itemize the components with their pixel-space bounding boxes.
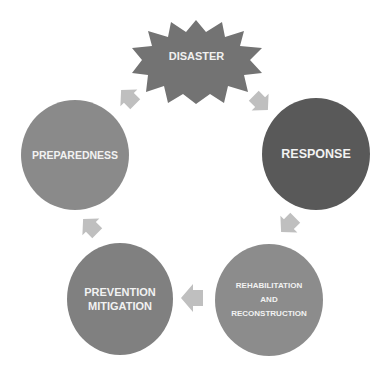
arrow-preparedness-to-disaster	[113, 82, 144, 113]
phase-prevention-mitigation: PREVENTION MITIGATION	[67, 243, 173, 355]
rehabilitation-line-1: REHABILITATION	[231, 279, 307, 293]
arrow-disaster-to-response	[245, 87, 276, 118]
prevention-line-1: PREVENTION	[84, 285, 156, 299]
rehabilitation-line-3: RECONSTRUCTION	[231, 307, 307, 321]
disaster-cycle-diagram: DISASTER PREPAREDNESS RESPONSE REHABILIT…	[0, 0, 387, 373]
disaster-label: DISASTER	[133, 50, 260, 62]
phase-response: RESPONSE	[262, 98, 370, 210]
arrow-response-to-rehabilitation	[273, 209, 304, 240]
response-label: RESPONSE	[281, 147, 350, 161]
arrow-rehabilitation-to-prevention	[181, 284, 203, 312]
phase-rehabilitation-reconstruction: REHABILITATION AND RECONSTRUCTION	[215, 244, 323, 356]
rehabilitation-line-2: AND	[231, 293, 307, 307]
arrow-prevention-to-preparedness	[75, 211, 106, 242]
prevention-line-2: MITIGATION	[84, 299, 156, 313]
disaster-starburst	[132, 20, 262, 104]
preparedness-label: PREPAREDNESS	[32, 149, 118, 161]
phase-preparedness: PREPAREDNESS	[21, 100, 129, 210]
